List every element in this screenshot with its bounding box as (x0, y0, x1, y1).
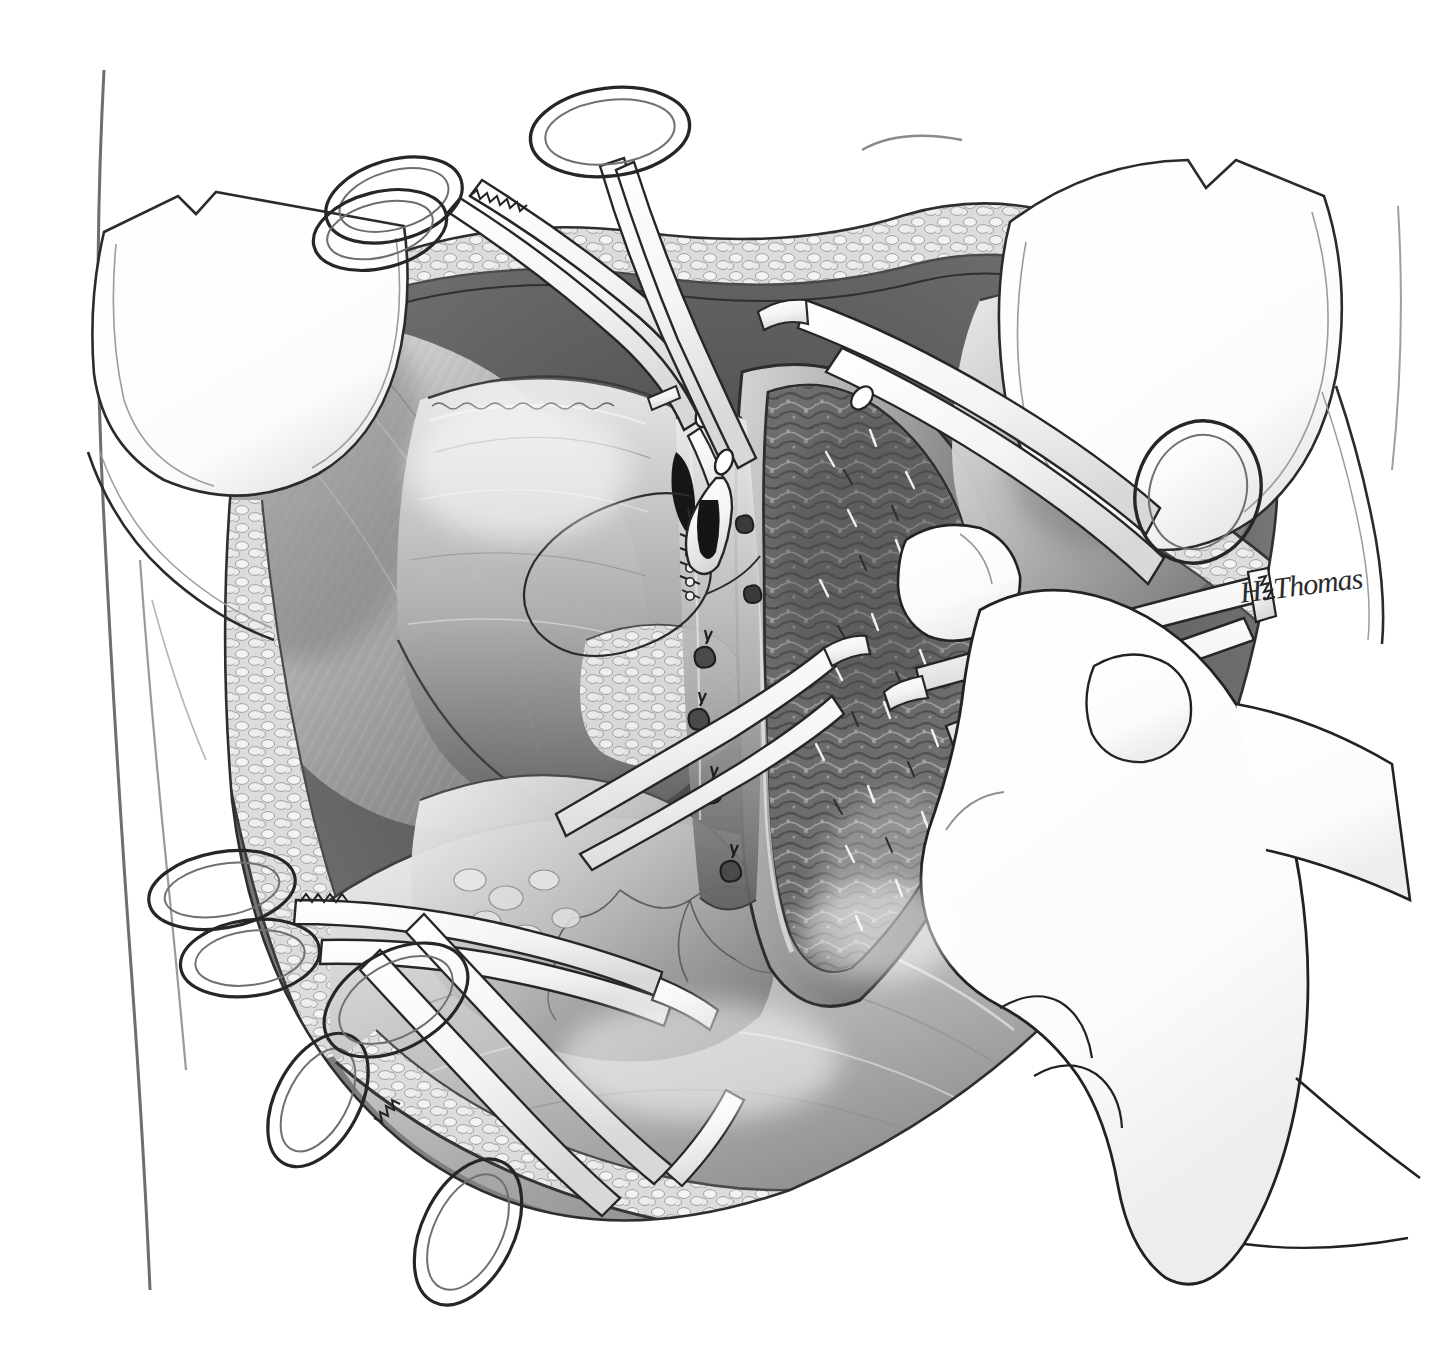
surgical-illustration (0, 0, 1431, 1368)
glove-thumb-pad (1086, 654, 1191, 762)
illustration-stage: H. Thomas (0, 0, 1431, 1368)
allis-grasped-tissue (697, 500, 720, 559)
